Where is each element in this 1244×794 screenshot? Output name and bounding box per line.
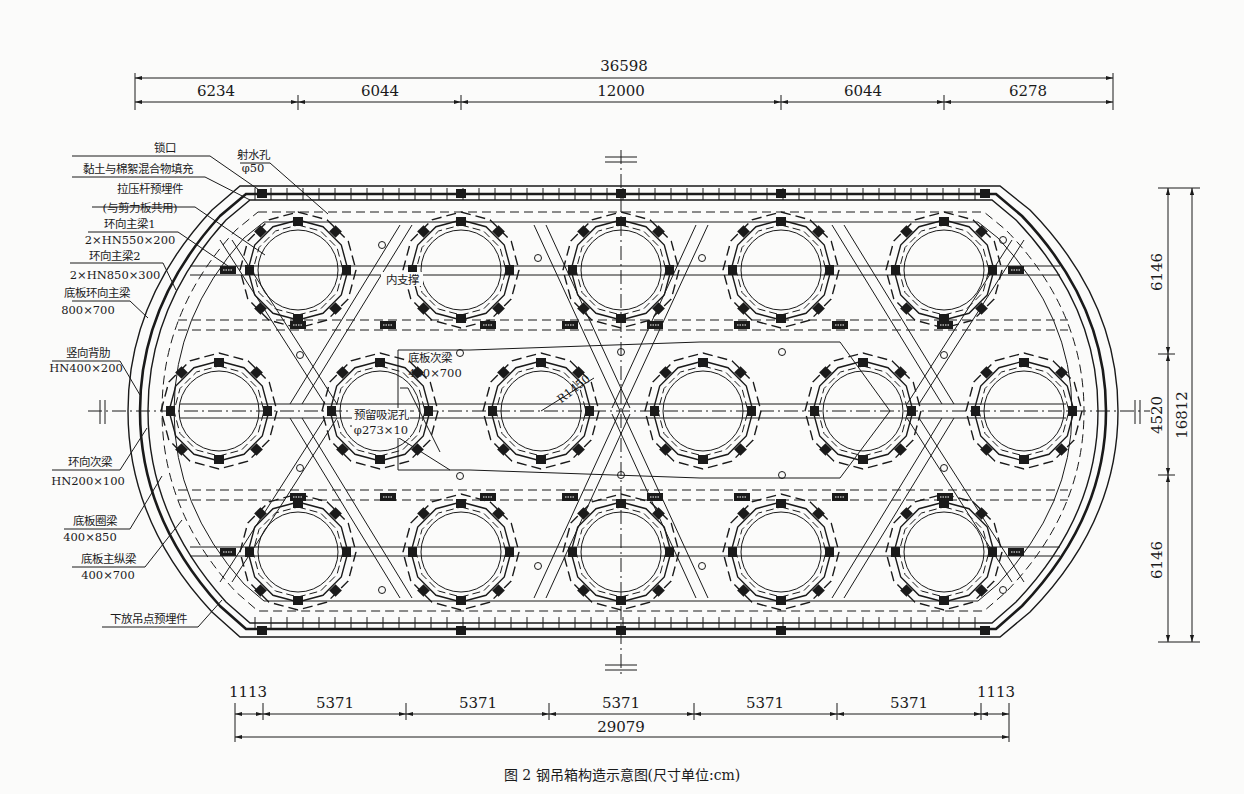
label-bottom-secondary-beam-spec: 400×700 xyxy=(408,366,462,380)
label-water-jet-hole: 射水孔 xyxy=(237,148,271,162)
dim-bottom-seg-2: 5371 xyxy=(316,694,354,712)
dim-right-seg-3: 6146 xyxy=(1148,541,1166,579)
dim-bottom-seg-1: 1113 xyxy=(229,683,267,701)
label-bottom-ring-main-beam-spec: 800×700 xyxy=(61,303,115,317)
label-bottom-ring-beam-spec: 400×850 xyxy=(63,530,117,544)
dim-right-total: 16812 xyxy=(1173,391,1191,439)
dim-top-seg-4: 6044 xyxy=(844,82,882,100)
dim-bottom-seg-5: 5371 xyxy=(746,694,784,712)
label-bottom-secondary-beam: 底板次梁 xyxy=(408,351,453,365)
label-vertical-rib-spec: HN400×200 xyxy=(49,361,123,375)
label-tie-rod-note: (与剪力板共用) xyxy=(103,201,178,215)
dim-bottom-seg-3: 5371 xyxy=(459,694,497,712)
dim-bottom-seg-7: 1113 xyxy=(977,683,1015,701)
label-inner-brace: 内支撑 xyxy=(386,273,420,287)
label-mud-suction-hole-spec: φ273×10 xyxy=(354,423,408,437)
label-bottom-ring-beam: 底板圈梁 xyxy=(73,514,118,528)
label-ring-secondary-beam: 环向次梁 xyxy=(68,455,113,469)
label-ring-main-beam-2: 环向主梁2 xyxy=(89,249,140,263)
dim-right-seg-1: 6146 xyxy=(1148,253,1166,291)
label-tie-rod-embedded: 拉压杆预埋件 xyxy=(117,182,183,196)
dim-top-seg-2: 6044 xyxy=(361,82,399,100)
label-water-jet-hole-spec: φ50 xyxy=(242,161,265,175)
steel-cofferdam-diagram: 36598 6234 6044 12000 6044 6278 6146 452… xyxy=(0,0,1244,794)
label-clay-cotton-fill: 黏土与棉絮混合物填充 xyxy=(83,162,194,176)
dim-bottom-seg-6: 5371 xyxy=(890,694,928,712)
label-ring-main-beam-2-spec: 2×HN850×300 xyxy=(70,268,161,282)
label-ring-main-beam-1-spec: 2×HN550×200 xyxy=(85,233,176,247)
label-vertical-rib: 竖向背肋 xyxy=(66,346,110,360)
dim-right-seg-2: 4520 xyxy=(1148,396,1166,434)
label-bottom-main-long-beam: 底板主纵梁 xyxy=(81,552,137,566)
figure-caption: 图 2 钢吊箱构造示意图(尺寸单位:cm) xyxy=(504,767,741,783)
dim-bottom-total: 29079 xyxy=(597,718,645,736)
label-bottom-main-long-beam-spec: 400×700 xyxy=(81,568,135,582)
dim-top-seg-5: 6278 xyxy=(1009,82,1047,100)
label-lowering-point-embedded: 下放吊点预埋件 xyxy=(110,612,187,626)
label-bottom-ring-main-beam: 底板环向主梁 xyxy=(64,286,131,300)
dim-top-seg-3: 12000 xyxy=(597,82,645,100)
label-ring-secondary-beam-spec: HN200×100 xyxy=(51,474,125,488)
label-radius: R1450 xyxy=(554,372,593,406)
dim-top-total: 36598 xyxy=(600,57,648,75)
label-lock: 锁口 xyxy=(154,141,176,155)
label-mud-suction-hole: 预留吸泥孔 xyxy=(354,408,410,422)
label-ring-main-beam-1: 环向主梁1 xyxy=(104,217,155,231)
dim-top-seg-1: 6234 xyxy=(197,82,235,100)
dim-bottom-seg-4: 5371 xyxy=(602,694,640,712)
